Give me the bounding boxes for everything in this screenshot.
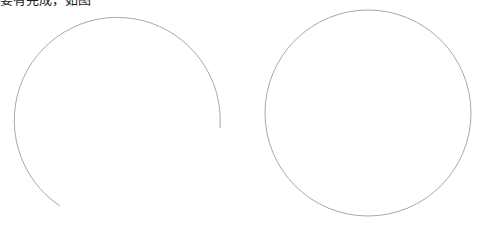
open-arc (14, 17, 220, 206)
figure-canvas (0, 0, 482, 225)
full-circle (265, 10, 471, 216)
